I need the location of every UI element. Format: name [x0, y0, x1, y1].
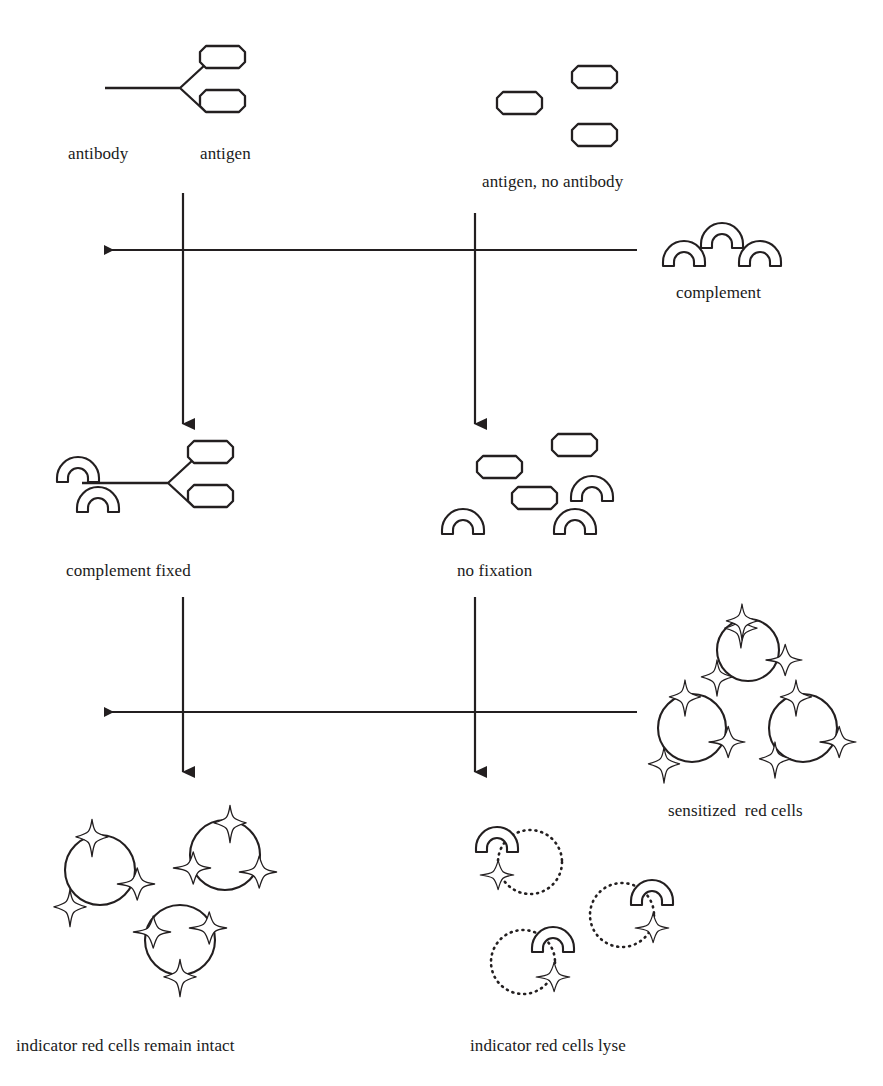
antigen-icon — [552, 434, 597, 456]
label-antigen-no-antibody: antigen, no antibody — [482, 172, 623, 192]
antigen-icon — [512, 487, 557, 509]
label-indicator-red-cells-remain-intact: indicator red cells remain intact — [16, 1036, 235, 1056]
red-cell-membrane — [769, 694, 837, 762]
complement-icon — [554, 509, 596, 534]
complement-icon — [739, 241, 781, 266]
label-sensitized-red-cells: sensitized red cells — [668, 801, 803, 821]
complement-legend-group — [663, 223, 781, 266]
star-icon — [635, 913, 669, 942]
complement-icon — [571, 476, 613, 501]
sensitized-red-cells-group — [648, 604, 856, 783]
intact-red-cells-group — [54, 805, 277, 996]
complement-icon — [77, 487, 119, 512]
label-indicator-red-cells-lyse: indicator red cells lyse — [470, 1036, 626, 1056]
label-no-fixation: no fixation — [457, 561, 532, 581]
antibody-antigen-complex-top — [105, 46, 245, 112]
label-antigen: antigen — [200, 144, 251, 164]
sensitized-red-cell — [769, 694, 837, 762]
antigen-icon — [572, 66, 617, 88]
complement-icon — [701, 223, 743, 248]
free-antigen-group — [497, 66, 617, 146]
lysed-red-cell — [491, 927, 574, 994]
antigen-icon — [497, 92, 542, 114]
complement-icon — [663, 241, 705, 266]
antibody-icon — [105, 64, 206, 112]
diagram-canvas — [0, 0, 883, 1086]
complement-fixation-diagram: antibody antigen antigen, no antibody co… — [0, 0, 883, 1086]
antigen-icon — [188, 485, 233, 507]
antigen-icon — [572, 124, 617, 146]
sensitized-red-cell — [658, 694, 726, 762]
label-complement: complement — [676, 283, 761, 303]
antigen-icon — [477, 456, 522, 478]
complement-fixed-complex — [57, 441, 233, 512]
antigen-icon — [200, 46, 245, 68]
red-cell-membrane — [65, 835, 135, 905]
lysed-red-cell — [590, 880, 673, 947]
label-antibody: antibody — [68, 144, 128, 164]
red-cell-membrane — [190, 820, 260, 890]
red-cell-membrane — [658, 694, 726, 762]
antigen-icon — [200, 90, 245, 112]
complement-icon — [57, 457, 99, 482]
no-fixation-group — [442, 434, 613, 534]
complement-icon — [442, 509, 484, 534]
flow-arrows — [104, 193, 637, 772]
label-complement-fixed: complement fixed — [66, 561, 191, 581]
complement-icon — [476, 827, 518, 852]
antigen-icon — [188, 441, 233, 463]
lysed-red-cell — [476, 827, 562, 894]
lysed-red-cells-group — [476, 827, 673, 994]
